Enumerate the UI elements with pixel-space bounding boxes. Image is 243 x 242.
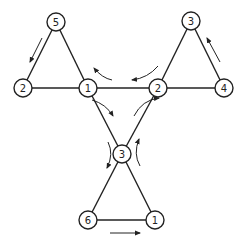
arrow-center-top-right — [132, 66, 158, 80]
node-n3a: 3 — [182, 12, 200, 30]
node-n4: 4 — [215, 79, 233, 97]
edges — [23, 21, 224, 220]
node-label: 2 — [155, 83, 161, 94]
node-n2a: 2 — [14, 79, 32, 97]
node-label: 5 — [53, 17, 59, 28]
node-n1b: 1 — [146, 211, 164, 229]
arrow-center-bottom-right — [136, 139, 140, 166]
edge-n3b-n6 — [88, 154, 122, 220]
nodes: 521234361 — [14, 12, 233, 229]
node-n1a: 1 — [79, 79, 97, 97]
edge-n3a-n4 — [191, 21, 224, 88]
node-label: 2 — [20, 83, 26, 94]
node-label: 3 — [119, 149, 125, 160]
flow-arrows — [30, 38, 220, 233]
node-label: 1 — [85, 83, 91, 94]
edge-n3a-n2b — [158, 21, 191, 88]
triangle-graph-diagram: 521234361 — [0, 0, 243, 242]
arrow-center-bottom-left — [107, 142, 111, 168]
node-n6: 6 — [79, 211, 97, 229]
node-n2b: 2 — [149, 79, 167, 97]
arrow-left-tri — [30, 38, 42, 62]
edge-n5-n1a — [56, 22, 88, 88]
node-label: 4 — [221, 83, 227, 94]
edge-n1a-n3b — [88, 88, 122, 154]
node-label: 1 — [152, 215, 158, 226]
node-label: 3 — [188, 16, 194, 27]
arrow-center-right — [134, 98, 159, 116]
edge-n2b-n3b — [122, 88, 158, 154]
node-n5: 5 — [47, 13, 65, 31]
node-label: 6 — [85, 215, 91, 226]
arrow-center-top-left — [94, 68, 112, 80]
node-n3b: 3 — [113, 145, 131, 163]
edge-n5-n2a — [23, 22, 56, 88]
